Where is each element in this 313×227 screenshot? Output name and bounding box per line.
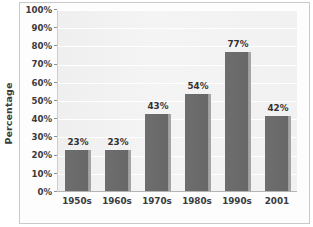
bar-value-label: 42% [265,103,291,113]
bars-group: 23%23%43%54%77%42% [58,10,297,192]
y-axis-tick-label: 50% [31,97,52,106]
bar[interactable] [145,114,171,192]
y-axis-tick: 100% [17,4,52,16]
y-axis-tick-label: 100% [25,6,52,15]
y-axis-title: Percentage [0,0,16,227]
bar[interactable] [65,150,91,192]
y-axis-tick-label: 90% [31,24,52,33]
bar-value-label: 23% [65,137,91,147]
bar-chart: Percentage 100%90%80%70%60%50%40%30%20%1… [0,0,313,227]
y-axis-tick: 0% [17,186,52,198]
y-axis-tick: 70% [17,59,52,71]
bar[interactable] [105,150,131,192]
y-axis-tick: 90% [17,22,52,34]
x-axis-tick-label: 1980s [177,196,217,206]
x-axis-tick-label: 1970s [137,196,177,206]
y-axis-tick-label: 60% [31,79,52,88]
x-axis-tick-label: 2001 [257,196,297,206]
y-axis-tick-label: 40% [31,115,52,124]
x-axis-tick-label: 1960s [97,196,137,206]
bar-slot: 23% [65,10,91,192]
y-axis-tick-label: 0% [37,188,52,197]
bar-value-label: 23% [105,137,131,147]
bar-value-label: 54% [185,81,211,91]
bar-slot: 42% [265,10,291,192]
bar-slot: 43% [145,10,171,192]
y-axis-tick: 50% [17,95,52,107]
y-axis-tick-labels: 100%90%80%70%60%50%40%30%20%10%0% [17,10,52,192]
y-axis-title-label: Percentage [3,82,14,144]
x-axis-line [58,191,297,192]
bar-value-label: 43% [145,101,171,111]
y-axis-tick: 80% [17,40,52,52]
y-axis-tick: 10% [17,168,52,180]
x-axis-tick-labels: 1950s1960s1970s1980s1990s2001 [57,196,297,212]
y-axis-tick: 60% [17,77,52,89]
bar[interactable] [225,52,251,192]
y-axis-tick: 20% [17,150,52,162]
bar-slot: 77% [225,10,251,192]
x-axis-tick-label: 1950s [57,196,97,206]
y-axis-tick: 30% [17,131,52,143]
x-axis-tick-label: 1990s [217,196,257,206]
bar[interactable] [185,94,211,192]
bar-slot: 23% [105,10,131,192]
y-axis-tick-label: 30% [31,133,52,142]
bar-slot: 54% [185,10,211,192]
y-axis-tick-label: 20% [31,151,52,160]
plot-area: 23%23%43%54%77%42% [57,10,297,192]
bar[interactable] [265,116,291,192]
y-axis-tick: 40% [17,113,52,125]
y-axis-tick-label: 10% [31,170,52,179]
bar-value-label: 77% [225,39,251,49]
y-axis-tick-label: 80% [31,42,52,51]
y-axis-tick-label: 70% [31,60,52,69]
